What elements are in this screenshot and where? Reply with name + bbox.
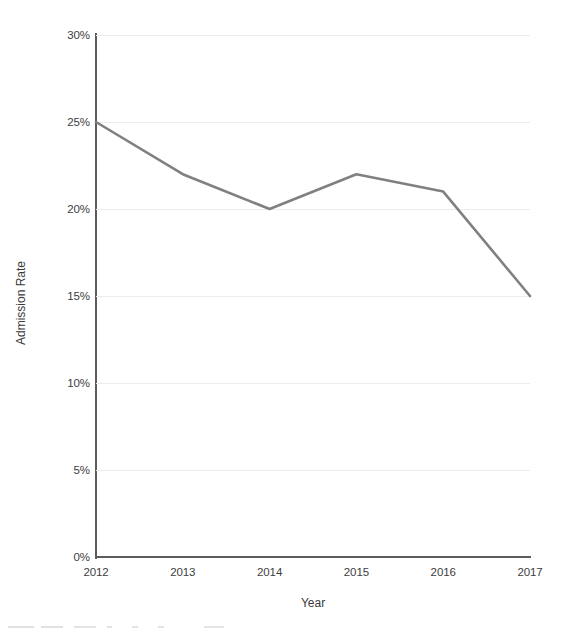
y-axis-title: Admission Rate [14, 243, 28, 363]
x-axis-tick-labels: 201220132014201520162017 [96, 566, 530, 586]
x-axis-tick-label: 2016 [431, 566, 456, 578]
scan-edge-artifact [8, 620, 248, 629]
plot-area [96, 35, 530, 557]
y-axis-tick-label: 0% [44, 551, 90, 563]
y-axis-tick-label: 30% [44, 29, 90, 41]
y-axis-tick-label: 15% [44, 290, 90, 302]
x-axis-tick-label: 2013 [170, 566, 195, 578]
y-axis-tick-labels: 0%5%10%15%20%25%30% [34, 35, 90, 557]
x-axis-tick-label: 2015 [344, 566, 369, 578]
y-axis-tick-label: 20% [44, 203, 90, 215]
y-axis-tick-label: 25% [44, 116, 90, 128]
y-axis-tick-label: 10% [44, 377, 90, 389]
x-axis-tick-label: 2012 [83, 566, 108, 578]
y-axis-tick-label: 5% [44, 464, 90, 476]
x-axis-tick-label: 2017 [517, 566, 542, 578]
line-series-admission-rate [96, 122, 530, 296]
x-axis-title: Year [96, 596, 530, 610]
chart-figure: 0%5%10%15%20%25%30% 20122013201420152016… [0, 0, 570, 632]
x-axis-tick-label: 2014 [257, 566, 282, 578]
data-series-group [96, 35, 530, 557]
